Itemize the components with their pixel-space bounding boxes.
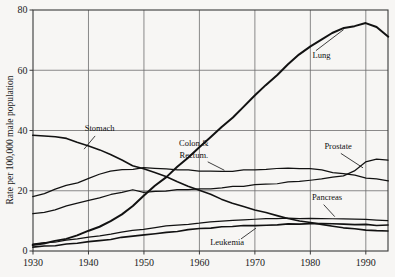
- series-label-colon-rectum-line2: Rectum.: [180, 150, 209, 160]
- x-tick-label: 1970: [245, 257, 265, 268]
- y-tick-label: 20: [18, 185, 28, 196]
- series-label-lung: Lung: [312, 50, 331, 60]
- x-tick-label: 1960: [189, 257, 209, 268]
- x-tick-label: 1990: [356, 257, 376, 268]
- series-label-prostate: Prostate: [324, 141, 352, 151]
- x-tick-label: 1940: [78, 257, 98, 268]
- cancer-death-rates-line-chart: LungStomachColon &Rectum.ProstatePancrea…: [0, 0, 395, 277]
- series-label-colon-rectum-line1: Colon &: [179, 138, 209, 148]
- chart-figure: LungStomachColon &Rectum.ProstatePancrea…: [0, 0, 395, 277]
- y-tick-label: 40: [18, 125, 28, 136]
- series-label-pancreas: Pancreas: [312, 192, 342, 202]
- y-axis-title: Rate per 100,000 male population: [5, 75, 15, 204]
- y-tick-label: 80: [18, 4, 28, 15]
- series-label-leukemia: Leukemia: [210, 237, 244, 247]
- x-tick-label: 1930: [23, 257, 43, 268]
- x-tick-label: 1950: [134, 257, 154, 268]
- x-tick-label: 1980: [300, 257, 320, 268]
- y-tick-label: 60: [18, 65, 28, 76]
- y-tick-label: 0: [23, 245, 28, 256]
- series-label-stomach: Stomach: [85, 123, 115, 133]
